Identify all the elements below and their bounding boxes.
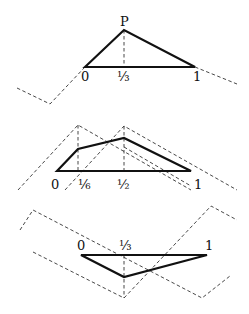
dashed-right-extension [195, 67, 237, 84]
label-one: 1 [194, 177, 202, 192]
diagram-middle: 0 ⅙ ½ 1 [18, 125, 237, 192]
label-P: P [120, 14, 129, 29]
triangle-0-P-1 [85, 30, 195, 67]
label-zero: 0 [81, 69, 89, 84]
label-zero: 0 [77, 238, 85, 253]
label-one: 1 [205, 238, 213, 253]
label-zero: 0 [51, 177, 59, 192]
dashed-left-zigzag [17, 67, 85, 104]
inverted-triangle [81, 255, 207, 277]
dashed-tent-half [65, 126, 237, 190]
diagram-top: P 0 ⅓ 1 [17, 14, 237, 104]
label-one-sixth: ⅙ [78, 177, 91, 192]
diagram-bottom: 0 ⅓ 1 [20, 206, 237, 298]
polygon-main [57, 138, 191, 171]
diagram-canvas: P 0 ⅓ 1 0 ⅙ ½ 1 0 ⅓ 1 [0, 0, 249, 314]
label-one-half: ½ [117, 177, 130, 192]
label-one: 1 [193, 69, 201, 84]
label-one-third: ⅓ [119, 238, 132, 253]
label-one-third: ⅓ [117, 69, 130, 84]
